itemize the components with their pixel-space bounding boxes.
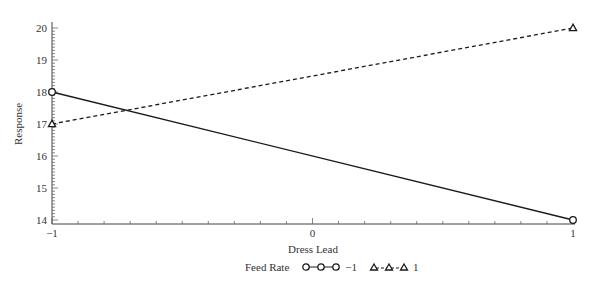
legend-label-minus1: −1: [345, 261, 357, 273]
y-tick-label: 15: [36, 182, 48, 194]
triangle-marker: [569, 24, 576, 30]
circle-marker-line-icon: [301, 262, 341, 272]
axes: 14151617181920−101: [36, 22, 576, 239]
legend-entry-1: 1: [369, 261, 419, 273]
series-group: [48, 24, 576, 223]
circle-marker: [570, 217, 577, 224]
y-tick-label: 17: [36, 118, 48, 130]
x-tick-label: 0: [310, 227, 316, 239]
y-tick-label: 16: [36, 150, 48, 162]
x-tick-label: −1: [46, 227, 58, 239]
legend-label-1: 1: [413, 261, 419, 273]
interaction-plot: 14151617181920−101 Response Dress Lead: [0, 0, 598, 290]
y-axis-title: Response: [12, 103, 24, 145]
y-tick-label: 19: [36, 54, 48, 66]
triangle-marker-line-icon: [369, 262, 409, 272]
y-tick-label: 20: [36, 22, 48, 34]
x-tick-label: 1: [570, 227, 576, 239]
y-tick-label: 14: [36, 214, 48, 226]
triangle-marker: [48, 120, 55, 126]
legend-title: Feed Rate: [245, 261, 289, 273]
circle-marker: [49, 89, 56, 96]
x-axis-title: Dress Lead: [288, 243, 338, 255]
series-line-1: [52, 28, 573, 124]
legend-entry-minus1: −1: [301, 261, 357, 273]
series-line--1: [52, 92, 573, 220]
legend: Feed Rate −1 1: [245, 261, 419, 273]
y-tick-label: 18: [36, 86, 48, 98]
